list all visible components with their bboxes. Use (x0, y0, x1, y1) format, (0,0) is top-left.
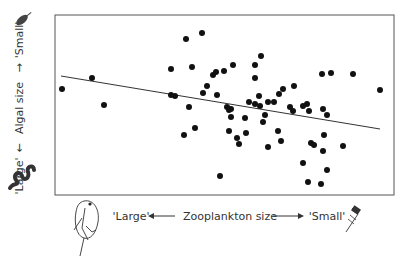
data-point (214, 92, 220, 98)
data-point (189, 64, 195, 70)
y-axis-arrow-down: ← (13, 143, 26, 152)
data-point (217, 173, 223, 179)
y-axis-small-label: 'Small' (13, 22, 26, 59)
data-point (260, 119, 266, 125)
data-point (256, 93, 262, 99)
data-point (306, 108, 312, 114)
data-point (275, 128, 281, 134)
data-point (320, 106, 326, 112)
data-point (304, 101, 310, 107)
data-point (291, 83, 297, 89)
data-point (320, 148, 326, 154)
x-axis-large-label: 'Large' (113, 210, 150, 223)
data-point (234, 135, 240, 141)
data-point (192, 125, 198, 131)
data-point (183, 36, 189, 42)
daphnia-icon (74, 201, 98, 256)
data-point (230, 62, 236, 68)
data-point (199, 30, 205, 36)
data-point (59, 86, 65, 92)
data-point (258, 53, 264, 59)
x-axis-small-label: 'Small' (309, 210, 346, 223)
data-point (252, 75, 258, 81)
data-point (243, 130, 249, 136)
data-point (186, 104, 192, 110)
data-point (252, 62, 258, 68)
x-axis-arrow-left (148, 213, 175, 219)
data-point (276, 91, 282, 97)
data-point (89, 75, 95, 81)
data-point (242, 115, 248, 121)
rotifer-icon (346, 205, 361, 232)
trendline (61, 76, 380, 129)
data-point (246, 99, 252, 105)
data-point (265, 99, 271, 105)
data-point (204, 83, 210, 89)
data-point (101, 102, 107, 108)
data-point (278, 138, 284, 144)
data-point (168, 66, 174, 72)
data-point (262, 112, 268, 118)
data-point (311, 142, 317, 148)
data-point (377, 87, 383, 93)
data-point (350, 71, 356, 77)
y-axis-arrow-up: → (13, 63, 26, 72)
data-point (324, 167, 330, 173)
data-point (226, 128, 232, 134)
data-point (280, 86, 286, 92)
scatter-chart: 'Large' ← Algal size → 'Small' 'Large' Z… (0, 0, 401, 263)
data-point (324, 112, 330, 118)
data-point (181, 132, 187, 138)
y-axis-label-group: 'Large' ← Algal size → 'Small' (13, 22, 26, 195)
data-point (221, 68, 227, 74)
data-point (228, 106, 234, 112)
data-point (236, 141, 242, 147)
data-point (305, 179, 311, 185)
x-axis-title: Zooplankton size (183, 210, 277, 223)
data-points (59, 30, 383, 187)
y-axis-title: Algal size (13, 82, 26, 134)
data-point (228, 114, 234, 120)
data-point (265, 144, 271, 150)
data-point (321, 132, 327, 138)
data-point (200, 90, 206, 96)
data-point (318, 181, 324, 187)
data-point (257, 103, 263, 109)
data-point (300, 160, 306, 166)
data-point (213, 69, 219, 75)
data-point (172, 93, 178, 99)
data-point (319, 71, 325, 77)
x-axis-arrow-right (273, 213, 304, 219)
data-point (340, 143, 346, 149)
data-point (290, 108, 296, 114)
data-point (328, 70, 334, 76)
data-point (271, 99, 277, 105)
